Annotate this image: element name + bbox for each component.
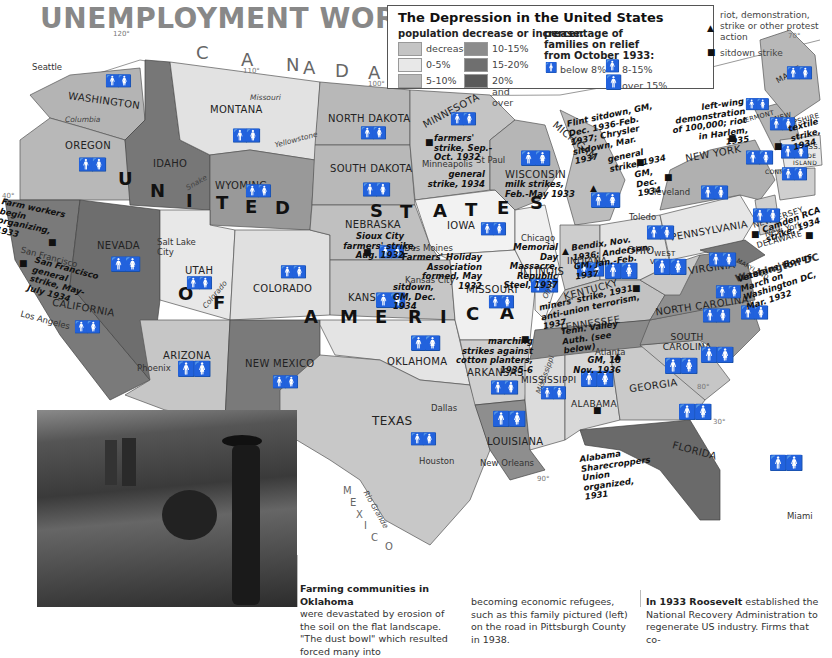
city-label: Toledo: [629, 212, 656, 222]
legend-label: 10-15%: [492, 43, 529, 54]
family-icon: 🚹🚺: [769, 454, 801, 472]
large-family-icon: 🚹: [605, 74, 619, 90]
degree-label: 80°: [697, 383, 709, 391]
family-icon: 🚹🚺: [781, 167, 805, 181]
usa-letter: I: [186, 190, 193, 211]
family-icon: 🚹🚺: [272, 375, 296, 389]
state-label: IOWA: [447, 220, 475, 231]
family-icon: 🚹🚺: [410, 432, 434, 446]
family-icon: 🚹🚺: [78, 157, 104, 172]
legend-box: The Depression in the United States popu…: [387, 5, 714, 89]
family-icon: 🚹🚺: [702, 308, 728, 323]
sitdown-square-icon: ■: [728, 133, 737, 143]
usa-letter: C: [466, 303, 479, 324]
square-icon: ■: [707, 47, 716, 57]
river-label: Columbia: [65, 115, 100, 124]
state-label: NORTH DAKOTA: [328, 113, 410, 124]
mexico-letter: I: [364, 520, 367, 531]
sitdown-square-icon: ■: [805, 230, 814, 240]
legend-title: The Depression in the United States: [398, 10, 664, 25]
legend-label: decrease: [426, 43, 469, 54]
state-label: TEXAS: [372, 414, 412, 428]
family-icon: 🚹🚺: [653, 258, 685, 276]
medium-family-icon: 🚹: [605, 59, 617, 73]
legend-label: 15-20%: [492, 59, 529, 70]
legend-protest-label: riot, demonstration, strike or other pro…: [720, 10, 820, 43]
usa-letter: T: [465, 199, 477, 220]
usa-letter: E: [497, 197, 509, 218]
family-icon: 🚹🚺: [678, 403, 710, 421]
protest-triangle-icon: ▲: [590, 183, 597, 193]
city-label: New Orleans: [480, 458, 534, 468]
city-label: Phoenix: [137, 363, 171, 373]
family-icon: 🚹🚺: [74, 320, 98, 334]
mexico-letter: E: [350, 497, 356, 508]
sitdown-square-icon: ■: [425, 137, 434, 147]
city-label: Dallas: [431, 403, 457, 413]
swatch-0-5: [398, 58, 422, 72]
caption-heading: Farming communities in Oklahoma: [300, 583, 429, 607]
legend-label: 8-15%: [622, 64, 653, 75]
family-icon: 🚹🚺: [700, 185, 726, 200]
usa-letter: A: [304, 306, 318, 327]
state-label: UTAH: [185, 265, 213, 276]
state-label: LOUISIANA: [487, 436, 544, 447]
state-label: COLORADO: [253, 283, 312, 294]
swatch-20-over: [464, 74, 488, 88]
city-label: Salt Lake City: [157, 237, 197, 257]
usa-letter: U: [118, 168, 133, 189]
swatch-10-15: [464, 42, 488, 56]
legend-label: below 8%: [560, 64, 606, 75]
family-icon: 🚹🚺: [590, 192, 618, 208]
city-label: Houston: [419, 456, 454, 466]
event-minneapolis: general strike, 1934: [415, 170, 485, 189]
usa-letter: N: [150, 180, 165, 201]
city-label: Miami: [787, 511, 813, 521]
legend-label: 0-5%: [426, 59, 451, 70]
usa-letter: M: [340, 306, 358, 327]
mexico-letter: C: [371, 532, 378, 543]
event-memorial-day: Memorial Day Massacre, Republic Steel, 1…: [503, 243, 558, 291]
usa-letter: T: [216, 192, 228, 213]
usa-letter: D: [275, 197, 290, 218]
photo-figure-man: [232, 445, 260, 605]
state-label: NEW MEXICO: [245, 358, 314, 369]
family-icon: 🚹🚺: [786, 66, 810, 80]
degree-label: 30°: [713, 418, 725, 426]
family-icon: 🚹🚺: [708, 252, 734, 267]
family-icon: 🚹🚺: [715, 285, 739, 299]
family-icon: 🚹🚺: [177, 360, 209, 378]
state-label: MONTANA: [210, 104, 263, 115]
event-wisconsin: milk strikes, Feb.-May 1933: [505, 180, 575, 199]
family-icon: 🚹🚺: [520, 150, 548, 166]
swatch-5-10: [398, 74, 422, 88]
event-alabama-sharecroppers: Alabama Sharecroppers Union organized, 1…: [579, 445, 655, 502]
state-label: SOUTH DAKOTA: [330, 163, 412, 174]
family-icon: 🚹🚺: [105, 74, 129, 88]
family-icon: 🚹🚺: [410, 335, 438, 351]
caption-col3: In 1933 Roosevelt established the Nation…: [646, 596, 826, 646]
usa-letter: T: [400, 201, 412, 222]
family-icon: 🚹🚺: [492, 410, 524, 428]
photo-figure-child: [105, 440, 117, 485]
city-label: Seattle: [32, 62, 62, 72]
state-label: NEVADA: [97, 240, 140, 251]
canada-letter: A: [303, 57, 315, 78]
event-gm-atlanta: GM, 18 Nov. 1936: [566, 356, 621, 375]
caption-text: were devastated by erosion of the soil o…: [300, 608, 448, 657]
degree-label: 120°: [113, 30, 130, 38]
state-label: IDAHO: [153, 158, 187, 169]
mexico-letter: M: [343, 485, 352, 496]
family-icon: 🚹🚺: [245, 184, 269, 198]
legend-relief-heading: percentage of families on relief from Oc…: [544, 28, 664, 61]
family-icon: 🚹🚺: [232, 128, 258, 143]
usa-letter: E: [375, 306, 387, 327]
degree-label: 110°: [243, 67, 260, 75]
event-kansas-city: sitdown, GM, Dec. 1934: [393, 283, 453, 312]
sitdown-square-icon: ■: [363, 247, 372, 257]
mexico-letter: X: [356, 509, 363, 520]
family-icon: 🚹🚺: [664, 357, 696, 375]
family-icon: 🚹🚺: [362, 182, 388, 197]
family-icon: 🚹🚺: [186, 276, 210, 290]
dust-bowl-photo: [37, 410, 297, 607]
